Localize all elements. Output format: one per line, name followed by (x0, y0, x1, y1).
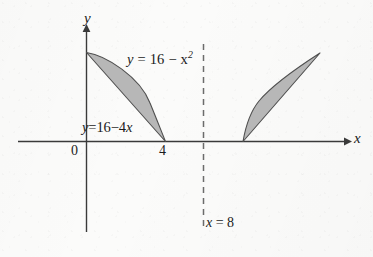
x-axis-arrowhead (344, 138, 352, 146)
math-figure: y x 0 4 y = 16 − x2 y=16−4x x = 8 (0, 0, 373, 257)
vline-label-body: = 8 (212, 215, 234, 230)
x-tick-label-4: 4 (159, 144, 166, 158)
line-label-body: =16−4 (88, 119, 126, 135)
parabola-label-lead: y (127, 51, 134, 67)
parabola-label-body: = 16 − x (134, 51, 188, 67)
parabola-label-exponent: 2 (188, 49, 193, 60)
line-label-var: x (126, 119, 132, 135)
line-equation-label: y=16−4x (82, 120, 132, 135)
shaded-region-right (243, 53, 320, 142)
y-axis-label: y (84, 11, 91, 26)
x-axis-label: x (354, 131, 361, 146)
vertical-line-equation-label: x = 8 (206, 216, 234, 230)
x-axis (18, 138, 352, 146)
plot-canvas (0, 0, 373, 257)
origin-label: 0 (71, 144, 78, 158)
parabola-equation-label: y = 16 − x2 (127, 50, 193, 66)
